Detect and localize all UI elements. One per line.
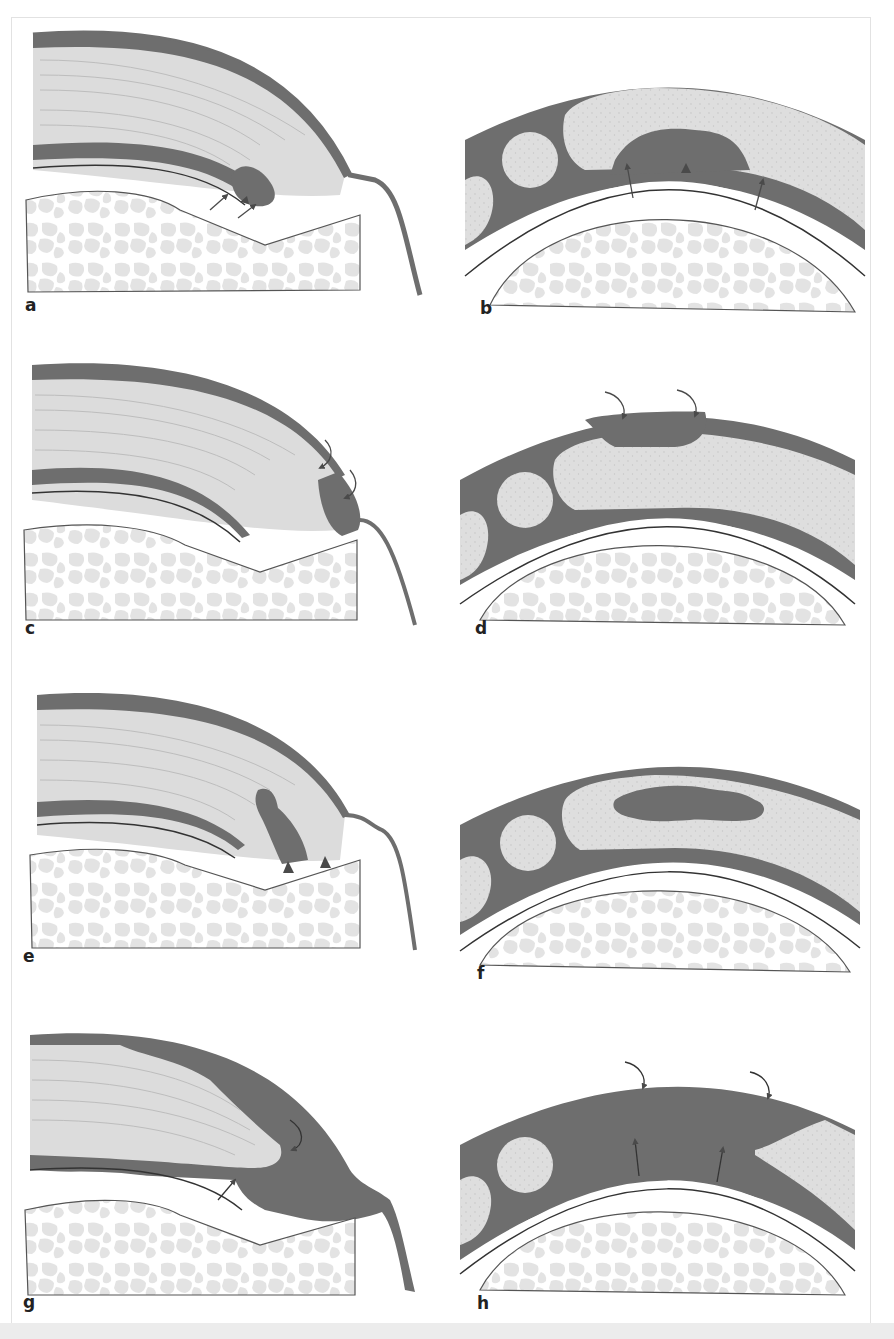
page-bottom-band (0, 1323, 894, 1339)
panel-label-a: a (25, 297, 36, 314)
sagittal-tendon-diagram (20, 350, 450, 650)
panel-b: b (455, 20, 885, 340)
coronal-tendon-diagram (455, 680, 885, 980)
panel-label-g: g (23, 1294, 35, 1311)
panel-f: f (455, 680, 885, 1000)
sagittal-tendon-diagram (20, 20, 450, 320)
panel-label-e: e (23, 948, 35, 965)
panel-label-f: f (477, 965, 484, 982)
panel-label-c: c (25, 620, 35, 637)
coronal-tendon-diagram (455, 1020, 885, 1320)
panel-e: e (20, 680, 450, 1000)
coronal-tendon-diagram (455, 350, 885, 650)
sagittal-tendon-diagram (20, 1020, 450, 1320)
panel-d: d (455, 350, 885, 670)
panel-label-d: d (475, 620, 487, 637)
panel-label-h: h (477, 1295, 489, 1312)
panel-h: h (455, 1020, 885, 1339)
coronal-tendon-diagram (455, 20, 885, 320)
panel-a: a (20, 20, 450, 340)
panel-g: g (20, 1020, 450, 1339)
sagittal-tendon-diagram (20, 680, 450, 980)
panel-label-b: b (480, 300, 492, 317)
panel-c: c (20, 350, 450, 670)
